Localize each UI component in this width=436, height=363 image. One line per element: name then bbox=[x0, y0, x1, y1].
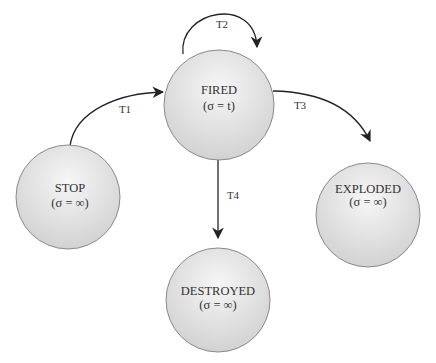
edge-label-t4: T4 bbox=[227, 189, 240, 201]
node-exploded-name: EXPLODED bbox=[335, 182, 401, 196]
edge-t4: T4 bbox=[218, 160, 240, 238]
node-stop-sub: (σ = ∞) bbox=[51, 196, 88, 210]
state-diagram: T1 T2 T3 T4 FIRED (σ = t) STOP (σ = ∞) E… bbox=[0, 0, 436, 363]
edge-t3: T3 bbox=[273, 91, 370, 141]
node-exploded-sub: (σ = ∞) bbox=[349, 195, 386, 209]
edge-label-t3: T3 bbox=[294, 99, 307, 111]
node-stop-name: STOP bbox=[55, 181, 85, 195]
node-destroyed-sub: (σ = ∞) bbox=[199, 298, 236, 312]
node-fired: FIRED (σ = t) bbox=[164, 50, 274, 160]
node-destroyed-name: DESTROYED bbox=[181, 284, 255, 298]
edge-t2: T2 bbox=[183, 14, 257, 54]
node-destroyed: DESTROYED (σ = ∞) bbox=[166, 248, 270, 352]
node-exploded: EXPLODED (σ = ∞) bbox=[316, 163, 420, 267]
node-stop: STOP (σ = ∞) bbox=[16, 145, 120, 249]
edge-label-t2: T2 bbox=[216, 18, 228, 30]
node-fired-sub: (σ = t) bbox=[203, 99, 235, 113]
node-fired-name: FIRED bbox=[201, 83, 237, 97]
edge-t1: T1 bbox=[70, 92, 163, 146]
edge-label-t1: T1 bbox=[119, 103, 131, 115]
